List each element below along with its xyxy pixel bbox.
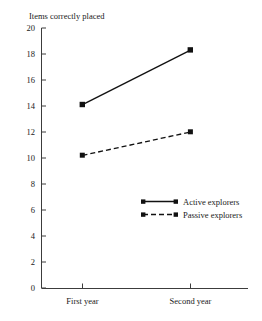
x-tick-label-second-year: Second year	[170, 296, 212, 306]
legend-swatch-marker-left-dashed	[141, 212, 145, 216]
chart-title: Items correctly placed	[29, 11, 105, 21]
x-axis-tick-labels: First year Second year	[66, 296, 211, 306]
chart-canvas: Items correctly placed 20 18 16 14 12 1	[0, 0, 262, 321]
legend-entry-active-explorers: Active explorers	[141, 197, 239, 207]
x-axis-ticks	[83, 284, 191, 289]
y-tick-label: 0	[31, 283, 35, 293]
y-tick-label: 16	[27, 75, 36, 85]
active-explorers-point-second-year	[188, 47, 193, 52]
active-explorers-line	[83, 50, 191, 105]
legend-swatch-marker-right-dashed	[174, 212, 178, 216]
y-axis-ticks	[42, 28, 47, 288]
line-chart: Items correctly placed 20 18 16 14 12 1	[0, 0, 262, 321]
legend-entry-passive-explorers: Passive explorers	[141, 210, 242, 220]
passive-explorers-line	[83, 132, 191, 155]
active-explorers-point-first-year	[80, 102, 85, 107]
y-tick-label: 20	[27, 23, 36, 33]
chart-legend: Active explorers Passive explorers	[141, 197, 242, 220]
legend-swatch-marker-left	[141, 199, 145, 203]
y-tick-label: 10	[27, 153, 36, 163]
y-tick-label: 4	[31, 231, 36, 241]
y-tick-label: 18	[27, 49, 36, 59]
series-active-explorers	[80, 47, 193, 107]
y-tick-label: 12	[27, 127, 36, 137]
y-tick-label: 8	[31, 179, 35, 189]
legend-label-passive-explorers: Passive explorers	[183, 210, 242, 220]
y-tick-label: 2	[31, 257, 35, 267]
legend-label-active-explorers: Active explorers	[183, 197, 239, 207]
passive-explorers-point-first-year	[80, 153, 85, 158]
x-tick-label-first-year: First year	[66, 296, 99, 306]
y-tick-label: 6	[31, 205, 35, 215]
legend-swatch-marker-right	[174, 199, 178, 203]
y-tick-label: 14	[27, 101, 36, 111]
y-axis-tick-labels: 20 18 16 14 12 10 8 6 4 2 0	[27, 23, 36, 293]
passive-explorers-point-second-year	[188, 129, 193, 134]
series-passive-explorers	[80, 129, 193, 157]
